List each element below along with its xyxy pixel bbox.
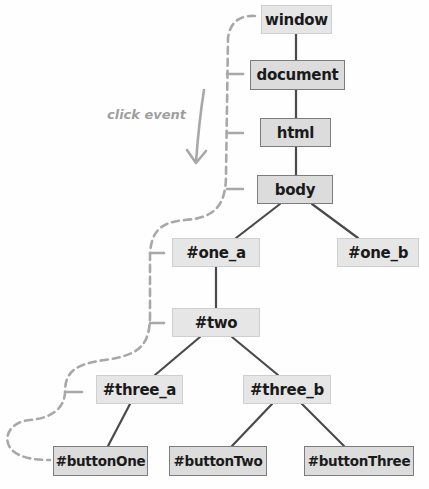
edge-three_a-buttonOne [108, 404, 130, 446]
node-two: #two [172, 308, 260, 337]
node-html: html [260, 118, 331, 147]
edge-two-three_a [155, 337, 200, 375]
click-event-label: click event [107, 107, 186, 122]
node-button-three: #buttonThree [304, 446, 414, 476]
node-document: document [250, 60, 345, 90]
edge-three_b-buttonTwo [232, 404, 272, 446]
down-arrow-icon [187, 90, 206, 163]
node-three-a: #three_a [96, 375, 183, 404]
node-button-two: #buttonTwo [169, 446, 267, 476]
node-button-one: #buttonOne [53, 446, 148, 476]
node-one-b: #one_b [337, 238, 419, 267]
node-body: body [257, 175, 333, 204]
node-window: window [261, 5, 332, 34]
edge-body-one_a [236, 204, 280, 238]
node-three-b: #three_b [243, 375, 331, 404]
event-propagation-diagram: click event window document html body #o… [0, 0, 429, 489]
edge-body-one_b [312, 204, 358, 238]
node-one-a: #one_a [172, 238, 260, 267]
edge-two-three_b [232, 337, 278, 375]
edge-three_b-buttonThree [302, 404, 344, 446]
